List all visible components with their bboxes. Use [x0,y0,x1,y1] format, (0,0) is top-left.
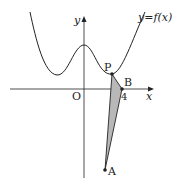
point-p-label: P [104,61,112,74]
y-axis-arrow-icon [82,16,87,22]
function-curve [30,12,145,75]
diagram-canvas: y=f(x) y x O 4 P B A [0,0,183,186]
point-a-label: A [107,165,117,178]
y-axis-label: y [73,14,81,27]
point-b-label: B [124,76,132,89]
triangle-pba [105,74,122,170]
tick-label-4: 4 [121,91,127,102]
x-axis-label: x [146,90,153,103]
curve-label: y=f(x) [137,11,172,24]
point-a [103,168,107,172]
origin-label: O [72,90,81,103]
